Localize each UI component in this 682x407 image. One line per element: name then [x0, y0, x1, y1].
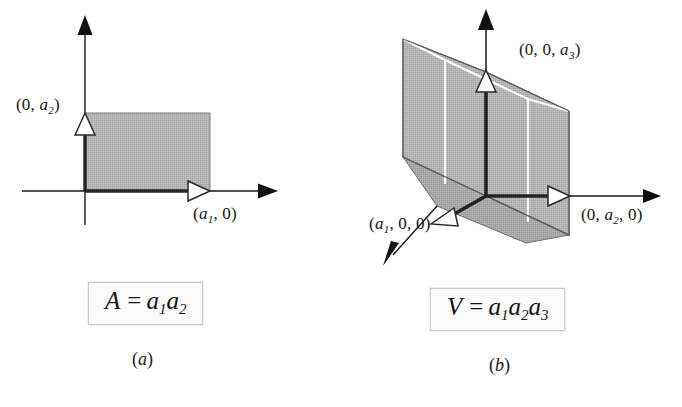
caption-panel-a: (a): [132, 349, 153, 370]
label-y-point-b-var: a: [604, 205, 613, 224]
label-x-point-a-close: , 0): [213, 204, 236, 223]
caption-panel-b-letter: b: [495, 355, 504, 375]
label-z-point-b-open: (0, 0,: [519, 40, 560, 59]
caption-panel-a-letter: a: [138, 349, 147, 369]
label-y-point-b-open: (0,: [581, 205, 604, 224]
x-axis-arrowhead: [258, 184, 278, 199]
formula-area-term2-var: a: [166, 287, 179, 314]
formula-box-area: A=a1a2: [88, 282, 203, 325]
formula-area-text: A=a1a2: [105, 288, 186, 317]
label-z-point-b-close: ): [575, 40, 581, 59]
formula-volume-equals: =: [464, 293, 488, 320]
panel-a-diagram: [0, 0, 341, 270]
label-y-point-b-close: , 0): [619, 205, 642, 224]
formula-area-term2-sub: 2: [179, 301, 187, 317]
formula-area-term1-var: a: [146, 287, 159, 314]
formula-area-equals: =: [122, 287, 146, 314]
label-y-point-a-var: a: [39, 95, 48, 114]
x-axis-arrowhead: [383, 241, 399, 266]
label-z-point-b-var: a: [560, 40, 569, 59]
label-y-point-b: (0, a2, 0): [581, 206, 643, 226]
label-z-point-b: (0, 0, a3): [519, 41, 581, 61]
formula-volume-term3-sub: 3: [541, 307, 549, 323]
formula-volume-term2-var: a: [508, 293, 521, 320]
label-y-point-a-close: ): [54, 95, 60, 114]
label-x-point-b: (a1, 0, 0): [369, 215, 431, 235]
y-axis-arrowhead: [78, 15, 93, 35]
caption-panel-b: (b): [489, 355, 510, 376]
panel-b-diagram: [341, 0, 682, 290]
label-x-point-b-var: a: [375, 214, 384, 233]
x-vector-open-arrowhead: [431, 208, 458, 226]
formula-volume-lhs: V: [447, 293, 464, 320]
label-y-point-a: (0, a2): [16, 96, 60, 116]
panel-a: (0, a2) (a1, 0) A=a1a2 (a): [0, 0, 341, 407]
formula-volume-text: V=a1a2a3: [447, 294, 548, 323]
label-x-point-a-var: a: [199, 204, 208, 223]
panel-b: (0, 0, a3) (a1, 0, 0) (0, a2, 0) V=a1a2a…: [341, 0, 682, 407]
formula-box-volume: V=a1a2a3: [430, 288, 565, 331]
figure-root: (0, a2) (a1, 0) A=a1a2 (a): [0, 0, 682, 407]
formula-volume-term1-var: a: [488, 293, 501, 320]
z-axis-arrowhead: [478, 9, 494, 30]
formula-area-lhs: A: [105, 287, 122, 314]
area-rectangle: [85, 113, 210, 191]
formula-volume-term3-var: a: [528, 293, 541, 320]
label-y-point-a-open: (0,: [16, 95, 39, 114]
label-x-point-a: (a1, 0): [193, 205, 237, 225]
y-axis-arrowhead: [643, 189, 661, 203]
label-x-point-b-close: , 0, 0): [389, 214, 430, 233]
